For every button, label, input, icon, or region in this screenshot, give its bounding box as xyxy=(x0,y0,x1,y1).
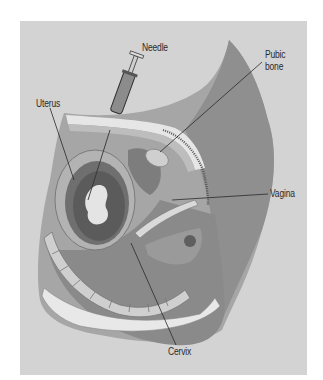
label-pubic-bone-line2: bone xyxy=(265,61,283,72)
label-pubic-bone-line1: Pubic xyxy=(265,49,285,60)
anatomy-illustration xyxy=(20,21,307,375)
label-uterus: Uterus xyxy=(36,98,60,109)
label-cervix: Cervix xyxy=(168,346,191,357)
syringe-plunger xyxy=(128,55,138,73)
label-needle: Needle xyxy=(142,42,168,53)
diagram-frame xyxy=(20,21,307,375)
syringe-barrel xyxy=(110,71,136,115)
label-vagina: Vagina xyxy=(270,188,295,199)
anus-detail xyxy=(184,235,196,247)
